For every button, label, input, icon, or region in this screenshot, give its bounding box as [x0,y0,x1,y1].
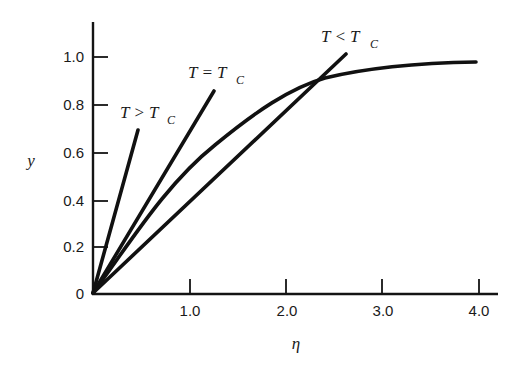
chart: 0 0.2 0.4 0.6 0.8 1.0 1.0 2.0 3.0 4.0 y … [0,0,519,366]
annotation-t-less-tc: T < T C [321,27,379,51]
y-tick-label: 0.4 [63,192,84,209]
y-tick-label: 0.8 [63,96,84,113]
svg-text:T < T: T < T [321,27,361,46]
svg-text:C: C [370,37,379,51]
y-axis-title: y [25,151,35,170]
line-t-greater-tc [93,130,138,293]
y-tick-label: 1.0 [63,48,84,65]
x-axis-title: η [292,334,300,353]
x-tick-label: 3.0 [373,302,394,319]
svg-text:T > T: T > T [120,103,160,122]
y-ticks [93,57,108,247]
y-tick-label: 0.6 [63,144,84,161]
x-ticks [190,279,479,294]
x-tick-label: 1.0 [180,302,201,319]
x-tick-label: 4.0 [469,302,490,319]
y-tick-label: 0 [76,285,84,302]
annotation-t-equal-tc: T = T C [188,63,245,87]
y-tick-labels: 0 0.2 0.4 0.6 0.8 1.0 [63,48,84,302]
svg-text:C: C [236,73,245,87]
y-tick-label: 0.2 [63,238,84,255]
svg-text:T = T: T = T [188,63,228,82]
line-t-less-tc [93,54,346,293]
svg-text:C: C [167,113,176,127]
x-tick-labels: 1.0 2.0 3.0 4.0 [180,302,490,319]
equilibrium-curve [93,62,476,293]
annotation-t-greater-tc: T > T C [120,103,176,127]
x-tick-label: 2.0 [277,302,298,319]
